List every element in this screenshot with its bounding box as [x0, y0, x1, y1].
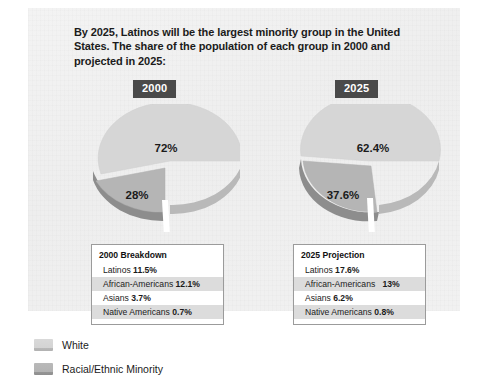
pie-2000-white-side: [170, 164, 240, 214]
table-row: African-Americans 13%: [294, 277, 425, 291]
pie-chart-2025: 62.4% 37.6%: [291, 104, 441, 232]
table-row: Latinos 11.5%: [92, 263, 223, 277]
breakdown-2025-group-1: African-Americans: [305, 279, 382, 289]
pie-chart-2000: 72% 28%: [90, 104, 240, 232]
breakdown-2025-value-3: 0.8%: [374, 307, 394, 317]
pie-2025-white-label: 62.4%: [357, 142, 390, 154]
legend-item-white: White: [34, 333, 163, 357]
table-row: African-Americans 12.1%: [92, 277, 223, 291]
legend-label-minority: Racial/Ethnic Minority: [62, 363, 163, 375]
pie-2025-minority-slice: [303, 161, 377, 212]
breakdown-2025-group-3: Native Americans: [305, 307, 374, 317]
breakdown-table-2025: 2025 Projection Latinos 17.6% African-Am…: [293, 244, 426, 325]
breakdown-2025-title: 2025 Projection: [294, 249, 425, 263]
legend-swatch-minority-icon: [34, 363, 53, 375]
breakdown-2025-value-1: 13%: [382, 279, 399, 289]
table-row: Native Americans 0.7%: [92, 305, 223, 319]
breakdown-2000-title: 2000 Breakdown: [92, 249, 223, 263]
legend-item-minority: Racial/Ethnic Minority: [34, 357, 163, 381]
breakdown-2000-value-3: 0.7%: [172, 307, 192, 317]
breakdown-2000-value-2: 3.7%: [131, 293, 151, 303]
legend-swatch-white-icon: [34, 339, 53, 351]
year-badge-2025: 2025: [335, 80, 378, 98]
pie-2000-callout-connector: [162, 200, 170, 232]
year-badge-2000: 2000: [133, 80, 176, 98]
breakdown-2025-group-0: Latinos: [305, 265, 335, 275]
table-row: Native Americans 0.8%: [294, 305, 425, 319]
legend-label-white: White: [62, 339, 89, 351]
table-row: Latinos 17.6%: [294, 263, 425, 277]
pie-2000-white-label: 72%: [154, 142, 177, 154]
table-row: Asians 6.2%: [294, 291, 425, 305]
breakdown-2025-group-2: Asians: [305, 293, 333, 303]
breakdown-2025-value-2: 6.2%: [333, 293, 353, 303]
breakdown-2000-group-1: African-Americans: [103, 279, 176, 289]
infographic-panel: By 2025, Latinos will be the largest min…: [28, 8, 460, 311]
breakdown-2025-value-0: 17.6%: [335, 265, 359, 275]
pie-2000-minority-label: 28%: [125, 189, 148, 201]
breakdown-2000-group-3: Native Americans: [103, 307, 172, 317]
breakdown-2000-group-0: Latinos: [103, 265, 133, 275]
pie-2025-minority-label: 37.6%: [327, 189, 360, 201]
page-title: By 2025, Latinos will be the largest min…: [74, 25, 404, 68]
breakdown-2000-value-1: 12.1%: [176, 279, 200, 289]
pie-2000-white-slice: [98, 104, 240, 174]
table-row: Asians 3.7%: [92, 291, 223, 305]
breakdown-2000-value-0: 11.5%: [133, 265, 157, 275]
breakdown-table-2000: 2000 Breakdown Latinos 11.5% African-Ame…: [91, 244, 224, 325]
breakdown-2000-group-2: Asians: [103, 293, 131, 303]
chart-legend: White Racial/Ethnic Minority: [34, 333, 163, 381]
pie-2025-white-side: [379, 161, 439, 214]
